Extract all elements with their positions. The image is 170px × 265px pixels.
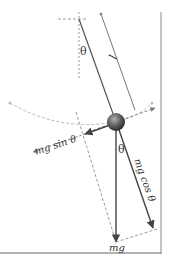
swing-arc bbox=[10, 103, 152, 125]
mg-label: mg bbox=[109, 242, 125, 253]
parallelogram-dashed-bottom bbox=[116, 229, 157, 242]
arc-end-left bbox=[9, 102, 12, 105]
pendulum-bob bbox=[107, 113, 125, 131]
length-dimension-end bbox=[100, 13, 103, 16]
parallelogram-dashed-left bbox=[76, 112, 116, 242]
pendulum-string bbox=[79, 19, 116, 122]
theta-top-label: θ bbox=[80, 45, 87, 58]
mg-sin-label: mg sin θ bbox=[33, 133, 77, 157]
arc-end-right bbox=[151, 102, 154, 105]
pendulum-diagram: l θ mg sin θ mg cos θ θ mg bbox=[0, 0, 170, 265]
theta-bottom-label: θ bbox=[118, 143, 125, 156]
length-label: l bbox=[107, 53, 121, 61]
